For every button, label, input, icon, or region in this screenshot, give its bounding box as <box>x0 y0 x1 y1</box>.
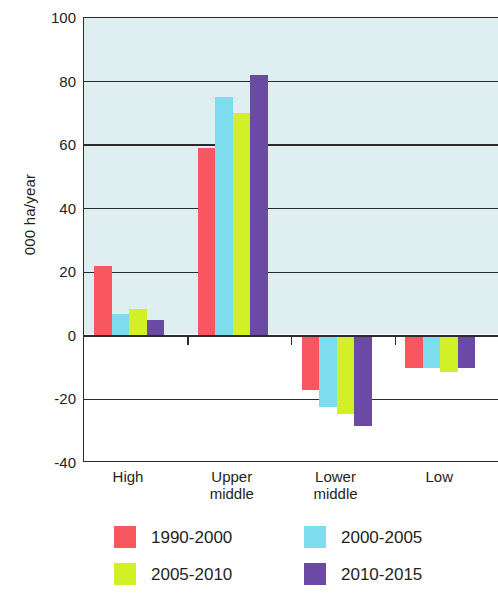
bar-2010-2015-Lower-middle <box>354 336 372 427</box>
x-tick-mark-2 <box>291 336 293 345</box>
y-axis-tick-60: 60 <box>22 137 76 152</box>
y-axis-tick-0: 0 <box>22 327 76 342</box>
bar-1990-2000-Upper-middle <box>198 148 216 336</box>
bar-2005-2010-Upper-middle <box>233 113 251 336</box>
bar-2010-2015-Upper-middle <box>250 75 268 336</box>
y-axis-tick-20: 20 <box>22 264 76 279</box>
positive-region-shading <box>84 18 498 336</box>
legend-swatch-2000-2005 <box>304 526 326 548</box>
x-tick-mark-1 <box>187 336 189 345</box>
gridline-20 <box>84 272 498 274</box>
bar-1990-2000-High <box>94 266 112 336</box>
bar-2005-2010-Low <box>440 336 458 373</box>
bar-1990-2000-Low <box>405 336 423 368</box>
legend-label-2000-2005: 2000-2005 <box>341 528 422 547</box>
legend-item-2010-2015[interactable]: 2010-2015 <box>304 563 422 585</box>
y-axis-tick-neg20: -20 <box>22 391 76 406</box>
bar-2005-2010-High <box>129 309 147 336</box>
x-tick-mark-3 <box>395 336 397 345</box>
bar-1990-2000-Lower-middle <box>302 336 320 390</box>
x-axis-label-low: Low <box>425 468 453 485</box>
legend-label-2005-2010: 2005-2010 <box>151 565 232 584</box>
gridline-60 <box>84 144 498 146</box>
bar-chart-figure: 000 ha/year 100806040200-20-40 HighUpper… <box>0 0 498 598</box>
legend-swatch-2005-2010 <box>114 563 136 585</box>
bar-2000-2005-Lower-middle <box>319 336 337 408</box>
y-axis-tick-40: 40 <box>22 200 76 215</box>
legend-label-2010-2015: 2010-2015 <box>341 565 422 584</box>
x-axis-label-high: High <box>113 468 144 485</box>
gridline-40 <box>84 208 498 210</box>
legend-label-1990-2000: 1990-2000 <box>151 528 232 547</box>
x-axis-category-labels: HighUpper middleLower middleLow <box>83 468 498 514</box>
plot-area <box>83 17 498 462</box>
legend-item-2005-2010[interactable]: 2005-2010 <box>114 563 232 585</box>
x-axis-label-lower-middle: Lower middle <box>313 468 357 502</box>
bar-2000-2005-Upper-middle <box>215 97 233 335</box>
bar-2000-2005-High <box>112 314 130 336</box>
legend-item-2000-2005[interactable]: 2000-2005 <box>304 526 422 548</box>
bar-2000-2005-Low <box>423 336 441 368</box>
x-axis-label-upper-middle: Upper middle <box>210 468 254 502</box>
legend-swatch-2010-2015 <box>304 563 326 585</box>
gridline-80 <box>84 81 498 83</box>
y-axis-tick-100: 100 <box>22 10 76 25</box>
bar-2010-2015-Low <box>458 336 476 368</box>
bar-2010-2015-High <box>147 320 165 336</box>
chart-legend: 1990-20002000-20052005-20102010-2015 <box>114 526 444 588</box>
y-axis-tick-labels: 100806040200-20-40 <box>22 17 76 462</box>
y-axis-tick-neg40: -40 <box>22 455 76 470</box>
y-axis-tick-80: 80 <box>22 73 76 88</box>
bar-2005-2010-Lower-middle <box>337 336 355 414</box>
legend-item-1990-2000[interactable]: 1990-2000 <box>114 526 232 548</box>
legend-swatch-1990-2000 <box>114 526 136 548</box>
gridline-neg20 <box>84 399 498 401</box>
